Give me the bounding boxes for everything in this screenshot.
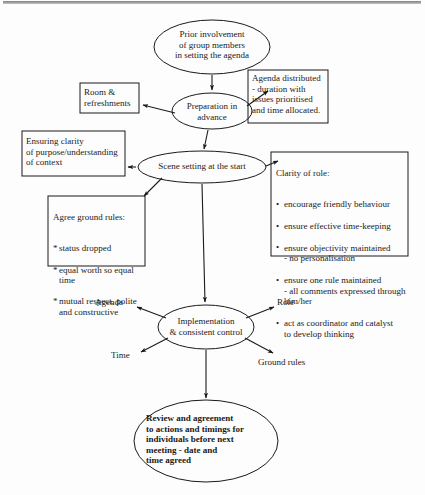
- node-agenda-distributed-label: Agenda distributed - duration with issue…: [252, 73, 328, 115]
- node-clarity-of-role-heading: Clarity of role:: [276, 168, 407, 179]
- edge-scene-to-implementation: [202, 184, 205, 302]
- node-room-refreshments-label: Room & refreshments: [84, 87, 138, 108]
- edge-scene-to-ground-rules: [144, 178, 162, 196]
- node-implementation-label: Implementation & consistent control: [156, 316, 256, 337]
- node-scene-setting-label: Scene setting at the start: [146, 161, 258, 172]
- edge-preparation-to-scene: [204, 130, 208, 149]
- node-clarity-of-role-content: Clarity of role: encourage friendly beha…: [276, 157, 407, 361]
- list-item: equal worth so equal time: [53, 265, 145, 286]
- list-item: encourage friendly behaviour: [276, 199, 407, 210]
- edge-implementation-to-time-label: [141, 338, 168, 352]
- edge-preparation-to-room: [143, 105, 175, 113]
- radial-label-role: Role: [277, 297, 294, 307]
- radial-label-time: Time: [111, 350, 130, 360]
- list-item: ensure effective time-keeping: [276, 221, 407, 232]
- list-item: ensure one rule maintained - all comment…: [276, 275, 407, 307]
- node-agree-ground-rules-list: status dropped equal worth so equal time…: [53, 233, 145, 328]
- radial-label-agenda: Agenda: [95, 297, 123, 307]
- edge-implementation-to-ground-rules-label: [245, 338, 273, 353]
- list-item: ensure objectivity maintained - no perso…: [276, 243, 407, 264]
- radial-label-ground-rules: Ground rules: [258, 357, 305, 367]
- node-prior-involvement-label: Prior involvement of group members in se…: [154, 29, 270, 61]
- node-agree-ground-rules-heading: Agree ground rules:: [53, 212, 145, 223]
- node-preparation-label: Preparation in advance: [172, 101, 252, 122]
- list-item: act as coordinator and catalyst to devel…: [276, 318, 407, 339]
- node-clarity-of-role-bullet-list: encourage friendly behaviour ensure effe…: [276, 189, 407, 351]
- flowchart-page: Prior involvement of group members in se…: [0, 0, 425, 495]
- node-agree-ground-rules-content: Agree ground rules: status dropped equal…: [53, 201, 145, 339]
- node-ensuring-clarity-label: Ensuring clarity of purpose/understandin…: [26, 136, 125, 168]
- node-review-agreement-label: Review and agreement to actions and timi…: [146, 413, 268, 466]
- list-item: status dropped: [53, 243, 145, 254]
